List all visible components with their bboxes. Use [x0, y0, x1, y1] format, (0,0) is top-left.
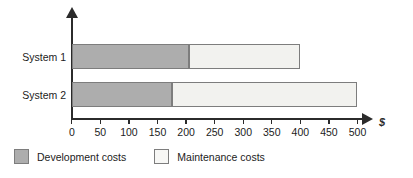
x-tick-label: 50: [95, 126, 107, 138]
chart-legend: Development costs Maintenance costs: [14, 149, 265, 164]
arrow-right-icon: [362, 113, 373, 125]
x-tick-label: 400: [292, 126, 310, 138]
x-tick: [271, 118, 272, 124]
stacked-bar-chart: $ 050100150200250300350400450500 System …: [0, 0, 413, 178]
x-tick: [357, 118, 358, 124]
dark-gray-swatch: [14, 149, 29, 164]
x-tick: [71, 118, 72, 124]
x-tick-label: 300: [234, 126, 252, 138]
x-tick: [300, 118, 301, 124]
x-tick: [157, 118, 158, 124]
x-tick-label: 0: [69, 126, 75, 138]
bar-row: [0, 82, 413, 107]
x-tick-label: 100: [120, 126, 138, 138]
bar-segment-development[interactable]: [72, 44, 189, 69]
x-tick-label: 500: [349, 126, 367, 138]
x-tick-label: 350: [263, 126, 281, 138]
x-tick: [243, 118, 244, 124]
x-tick: [214, 118, 215, 124]
bar-segment-development[interactable]: [72, 82, 172, 107]
arrow-up-icon: [66, 7, 78, 18]
x-tick-label: 150: [149, 126, 167, 138]
x-tick: [185, 118, 186, 124]
light-gray-swatch: [154, 149, 169, 164]
x-tick: [100, 118, 101, 124]
x-tick-label: 450: [320, 126, 338, 138]
bar-segment-maintenance[interactable]: [189, 44, 300, 69]
x-tick: [128, 118, 129, 124]
legend-label-development: Development costs: [37, 151, 126, 163]
bar-row: [0, 44, 413, 69]
bar-segment-maintenance[interactable]: [172, 82, 358, 107]
legend-label-maintenance: Maintenance costs: [177, 151, 265, 163]
legend-item-maintenance[interactable]: Maintenance costs: [154, 149, 265, 164]
x-tick: [328, 118, 329, 124]
x-axis-unit-label: $: [379, 116, 385, 128]
x-tick-label: 200: [177, 126, 195, 138]
x-tick-label: 250: [206, 126, 224, 138]
legend-item-development[interactable]: Development costs: [14, 149, 126, 164]
x-axis-line: [71, 118, 363, 120]
